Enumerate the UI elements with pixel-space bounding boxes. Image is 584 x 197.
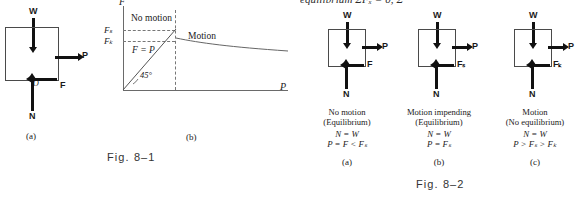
fig1-panel-b-letter: (b) [186, 132, 197, 142]
fig2-panel-a-eq1: N = W [300, 129, 394, 140]
origin-label-o: O [33, 80, 39, 88]
line-label-f-equals-p: F = P [132, 46, 155, 56]
fig2-panel-b-subtitle: (Equilibrium) [390, 117, 488, 127]
force-label-w: W [343, 11, 352, 20]
region-label-motion: Motion [188, 32, 216, 42]
angle-label-45: 45° [140, 71, 152, 80]
fig2-panel-c-letter: (c) [486, 157, 584, 167]
angle-arc [133, 79, 138, 84]
fig2-panel-b-title: Motion impending [390, 107, 488, 117]
fig1-caption: Fig. 8–1 [107, 151, 156, 163]
fig2-panel-b-letter: (b) [390, 157, 488, 167]
force-label-f: F [60, 81, 66, 90]
force-label-p: P [82, 51, 88, 60]
force-label-n: N [433, 90, 440, 99]
fig2-panel-b-eq1: N = W [390, 129, 488, 140]
force-label-w: W [29, 7, 38, 16]
force-label-p: P [568, 42, 574, 51]
static-friction-line [123, 29, 176, 90]
fig1-panel-b-graph: F P Fₛ Fₖ No motion Motion F = P 45° (b) [100, 0, 290, 150]
force-label-fk: Fₖ [553, 60, 563, 69]
fig2-panel-b: W P Fₛ N Motion impending (Equilibrium) … [390, 0, 488, 180]
fig2-panel-c-title: Motion [486, 107, 584, 117]
fig2-panel-a-subtitle: (Equilibrium) [300, 117, 394, 127]
fig2-panel-c-eq2: P > Fₛ > Fₖ [486, 139, 584, 150]
fig2-panel-a: W P F N No motion (Equilibrium) N = W P … [300, 0, 394, 180]
force-label-n: N [529, 90, 536, 99]
region-label-no-motion: No motion [131, 14, 172, 24]
figure-sheet: equilibrium ΣFₓ = 0, Σ W P F O [0, 0, 584, 197]
force-label-w: W [433, 11, 442, 20]
force-label-n: N [29, 112, 36, 121]
fig2-panel-c-subtitle: (No equilibrium) [486, 117, 584, 127]
fig2-caption: Fig. 8–2 [416, 178, 465, 190]
force-label-p: P [382, 42, 388, 51]
fig2-panel-c-eq1: N = W [486, 129, 584, 140]
fig2-panel-c: W P Fₖ N Motion (No equilibrium) N = W P… [486, 0, 584, 180]
force-label-f: F [367, 60, 373, 69]
fig2-panel-a-eq2: P = F < Fₛ [300, 139, 394, 150]
fig2-panel-b-eq2: P = Fₛ [390, 139, 488, 150]
fig1-panel-a: W P F O N (a) [0, 0, 100, 150]
fig1-panel-a-letter: (a) [26, 131, 36, 141]
force-label-w: W [529, 11, 538, 20]
fig2-panel-a-letter: (a) [300, 157, 394, 167]
fig2-panel-a-title: No motion [300, 107, 394, 117]
force-label-p: P [472, 42, 478, 51]
force-label-fs: Fₛ [457, 60, 466, 69]
friction-curve-svg [100, 0, 290, 150]
force-label-n: N [343, 90, 350, 99]
